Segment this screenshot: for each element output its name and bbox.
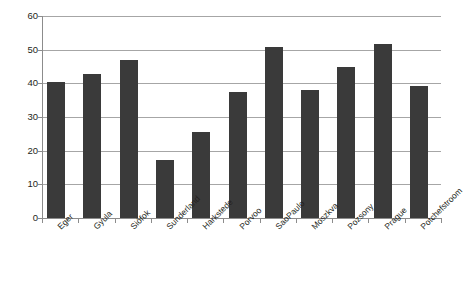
- x-axis-labels: EgerGyulaSiófokSunderlandHarkstedePorvoo…: [42, 225, 452, 295]
- x-axis-tick-mark: [151, 219, 152, 223]
- bar: [120, 60, 138, 218]
- x-axis-tick-mark: [296, 219, 297, 223]
- y-axis-tick-label: 20: [4, 146, 38, 156]
- bar: [265, 47, 283, 218]
- y-axis-tick-label: 0: [4, 213, 38, 223]
- y-axis-tick-label: 40: [4, 79, 38, 89]
- y-axis: 0102030405060: [0, 16, 38, 218]
- x-axis-tick-mark: [187, 219, 188, 223]
- bar: [83, 74, 101, 218]
- y-axis-line: [42, 16, 43, 219]
- bar: [337, 67, 355, 218]
- plot-area: [42, 16, 441, 218]
- bar: [301, 90, 319, 218]
- x-axis-tick-mark: [405, 219, 406, 223]
- x-axis-tick-mark: [115, 219, 116, 223]
- x-axis-tick-mark: [223, 219, 224, 223]
- y-axis-tick-label: 60: [4, 11, 38, 21]
- y-axis-tick-label: 50: [4, 45, 38, 55]
- y-axis-tick-label: 30: [4, 112, 38, 122]
- bar: [156, 160, 174, 218]
- x-axis-tick-mark: [260, 219, 261, 223]
- x-axis-tick-mark: [441, 219, 442, 223]
- x-axis-tick-mark: [332, 219, 333, 223]
- bar: [410, 86, 428, 218]
- x-axis-tick-mark: [42, 219, 43, 223]
- bar: [374, 44, 392, 218]
- gridline: [42, 16, 441, 17]
- bar: [47, 82, 65, 218]
- y-axis-tick-label: 10: [4, 180, 38, 190]
- x-axis-tick-mark: [78, 219, 79, 223]
- x-axis-tick-mark: [368, 219, 369, 223]
